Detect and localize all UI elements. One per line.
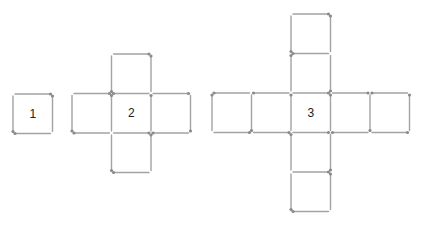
- match-head: [250, 129, 253, 132]
- match-head: [366, 91, 369, 94]
- match-head: [329, 89, 332, 92]
- match-head: [408, 93, 411, 96]
- match-head: [110, 169, 113, 172]
- match-head: [329, 93, 332, 96]
- match-head: [149, 54, 152, 57]
- match-head: [289, 133, 292, 136]
- match-head: [331, 131, 334, 134]
- match-head: [327, 131, 330, 134]
- match-head: [289, 93, 292, 96]
- match-head: [329, 172, 332, 175]
- match-head: [406, 131, 409, 134]
- match-head: [51, 94, 54, 97]
- match-head: [70, 129, 73, 132]
- match-head: [187, 92, 190, 95]
- match-head: [110, 94, 113, 97]
- match-head: [149, 94, 152, 97]
- match-head: [189, 129, 192, 132]
- match-head: [289, 54, 292, 57]
- figure-3: 3: [210, 12, 411, 213]
- match-head: [370, 91, 373, 94]
- matchstick-diagram: 1 2 3: [0, 0, 421, 225]
- figure-label: 3: [307, 106, 314, 120]
- match-head: [368, 129, 371, 132]
- figure-label: 1: [29, 107, 36, 121]
- match-head: [289, 50, 292, 53]
- match-head: [329, 168, 332, 171]
- match-head: [329, 14, 332, 17]
- match-head: [149, 133, 152, 136]
- figure-2: 2: [70, 52, 192, 174]
- match-head: [252, 91, 255, 94]
- figure-label: 2: [128, 106, 135, 120]
- match-head: [11, 130, 14, 133]
- figure-1: 1: [11, 92, 54, 135]
- match-head: [210, 93, 213, 96]
- match-head: [289, 208, 292, 211]
